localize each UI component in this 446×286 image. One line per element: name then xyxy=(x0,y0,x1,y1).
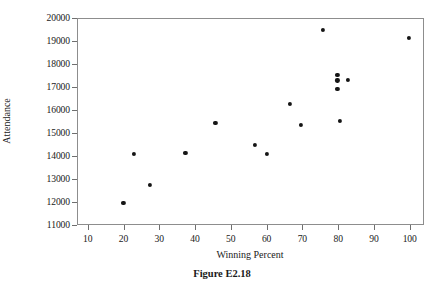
data-point xyxy=(407,36,411,40)
y-axis-tick-label: 19000 xyxy=(47,36,71,46)
y-axis-tick-label: 14000 xyxy=(47,151,71,161)
y-axis-tick-label: 20000 xyxy=(47,13,71,23)
x-axis-tick-label: 50 xyxy=(226,234,235,244)
x-axis-tick-label: 60 xyxy=(262,234,271,244)
x-axis-tick xyxy=(338,225,339,230)
y-axis-tick-label: 12000 xyxy=(47,197,71,207)
data-point xyxy=(335,87,339,91)
x-axis-title: Winning Percent xyxy=(216,249,283,260)
data-point xyxy=(338,119,342,123)
x-axis-tick xyxy=(302,225,303,230)
x-axis-tick-label: 70 xyxy=(298,234,307,244)
y-axis-tick-label: 17000 xyxy=(47,82,71,92)
x-axis-tick xyxy=(88,225,89,230)
data-point xyxy=(213,121,217,125)
x-axis-tick-label: 90 xyxy=(369,234,378,244)
x-axis-tick-label: 30 xyxy=(155,234,164,244)
x-axis-tick xyxy=(124,225,125,230)
data-point xyxy=(121,201,125,205)
data-point xyxy=(346,78,350,82)
y-axis-title: Attendance xyxy=(1,98,12,144)
data-point xyxy=(335,73,339,77)
data-point xyxy=(253,143,257,147)
x-axis-tick-label: 40 xyxy=(190,234,199,244)
data-point xyxy=(288,102,292,106)
x-axis-tick xyxy=(159,225,160,230)
figure-caption: Figure E2.18 xyxy=(193,268,251,279)
data-point xyxy=(321,28,325,32)
x-axis-tick xyxy=(410,225,411,230)
y-axis-tick-label: 15000 xyxy=(47,128,71,138)
data-point xyxy=(132,152,136,156)
data-point xyxy=(298,123,302,127)
plot-area xyxy=(77,18,424,225)
x-axis-tick-label: 80 xyxy=(333,234,342,244)
x-axis-tick-label: 20 xyxy=(119,234,128,244)
x-axis-tick xyxy=(374,225,375,230)
data-point xyxy=(264,152,268,156)
data-point xyxy=(183,151,187,155)
scatter-plot-figure: 1100012000130001400015000160001700018000… xyxy=(0,0,446,286)
data-point-layer xyxy=(78,19,423,224)
data-point xyxy=(335,78,339,82)
x-axis-tick xyxy=(195,225,196,230)
x-axis-tick-label: 10 xyxy=(83,234,92,244)
x-axis-tick xyxy=(267,225,268,230)
y-axis-tick-label: 16000 xyxy=(47,105,71,115)
y-axis-tick-label: 13000 xyxy=(47,174,71,184)
x-axis-tick-label: 100 xyxy=(403,234,417,244)
data-point xyxy=(147,183,151,187)
y-axis-tick-label: 18000 xyxy=(47,59,71,69)
x-axis-tick xyxy=(231,225,232,230)
x-axis: Winning Percent Figure E2.18 10203040506… xyxy=(0,225,446,286)
